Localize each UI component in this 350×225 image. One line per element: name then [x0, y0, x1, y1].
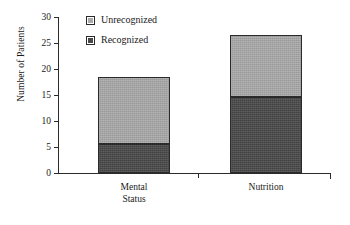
bar-chart: Number of Patients Unrecognized Recogniz…: [0, 0, 350, 225]
x-category-label-line1: Nutrition: [211, 181, 321, 193]
y-tick-label-25: 25: [42, 39, 52, 49]
y-tick-label-30: 30: [42, 13, 52, 23]
y-axis-title: Number of Patients: [16, 0, 30, 134]
bar-mental-status: [98, 77, 170, 173]
y-tick-label-20: 20: [42, 65, 52, 75]
plot-area: 051015202530: [58, 17, 330, 173]
x-category-label-1: Nutrition: [211, 181, 321, 193]
bar-segment-unrecognized: [230, 35, 302, 97]
y-tick-10: [54, 121, 59, 122]
y-tick-0: [54, 173, 59, 174]
bar-segment-recognized: [98, 144, 170, 173]
y-tick-label-5: 5: [46, 143, 51, 153]
y-tick-label-10: 10: [42, 117, 52, 127]
x-category-label-line1: Mental: [79, 181, 189, 193]
y-tick-25: [54, 43, 59, 44]
x-category-label-0: MentalStatus: [79, 181, 189, 205]
y-tick-30: [54, 17, 59, 18]
y-tick-20: [54, 69, 59, 70]
y-tick-label-0: 0: [46, 169, 51, 179]
x-tick-1: [330, 173, 331, 179]
x-tick-0: [198, 173, 199, 178]
x-category-label-line2: Status: [79, 193, 189, 205]
y-tick-label-15: 15: [42, 91, 52, 101]
y-tick-5: [54, 147, 59, 148]
bar-nutrition: [230, 35, 302, 173]
y-tick-15: [54, 95, 59, 96]
x-axis-line: [58, 173, 330, 174]
bar-segment-unrecognized: [98, 77, 170, 144]
bar-segment-recognized: [230, 97, 302, 173]
